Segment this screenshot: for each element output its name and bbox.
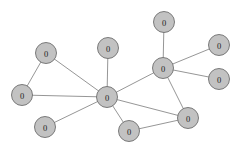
node-layer: 00000000000	[12, 12, 230, 142]
node-circle[interactable]	[12, 85, 33, 106]
edge-upper-left-center-hub	[46, 53, 107, 97]
edge-center-hub-bottom-right-stub	[107, 97, 188, 118]
node-upper-left[interactable]: 0	[36, 43, 57, 64]
node-circle[interactable]	[209, 69, 230, 90]
node-top-center[interactable]: 0	[98, 38, 119, 59]
node-far-right-upper[interactable]: 0	[209, 35, 230, 56]
node-center-hub[interactable]: 0	[97, 87, 118, 108]
node-far-right-lower[interactable]: 0	[209, 69, 230, 90]
node-top-right[interactable]: 0	[154, 12, 175, 33]
node-circle[interactable]	[35, 117, 56, 138]
node-bottom-right[interactable]: 0	[178, 108, 199, 129]
graph-canvas: 00000000000	[0, 0, 245, 151]
node-far-left[interactable]: 0	[12, 85, 33, 106]
node-right-hub[interactable]: 0	[153, 58, 174, 79]
node-lower-left[interactable]: 0	[35, 117, 56, 138]
node-circle[interactable]	[97, 87, 118, 108]
node-circle[interactable]	[209, 35, 230, 56]
node-circle[interactable]	[178, 108, 199, 129]
node-bottom-center[interactable]: 0	[119, 121, 140, 142]
network-graph-figure: 00000000000	[0, 0, 245, 151]
node-circle[interactable]	[36, 43, 57, 64]
node-circle[interactable]	[153, 58, 174, 79]
node-circle[interactable]	[98, 38, 119, 59]
node-circle[interactable]	[119, 121, 140, 142]
edge-far-left-center-hub	[22, 95, 107, 97]
node-circle[interactable]	[154, 12, 175, 33]
